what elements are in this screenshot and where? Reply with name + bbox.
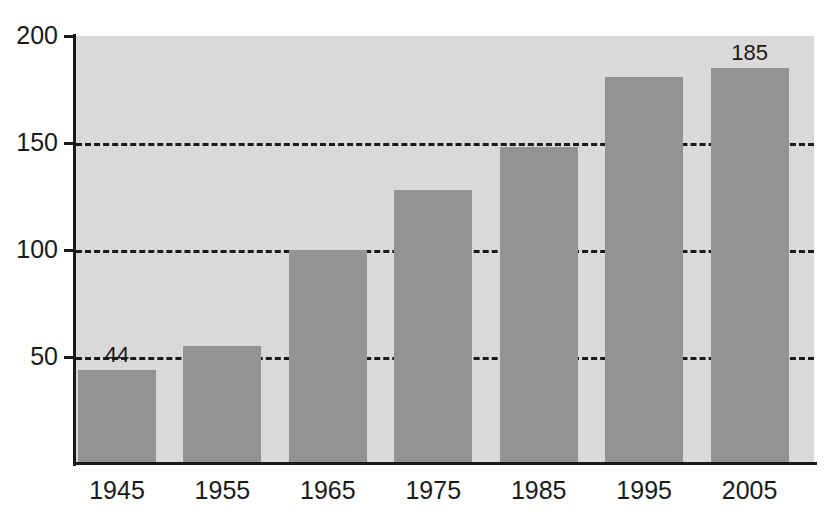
y-tick-mark-100 bbox=[64, 249, 76, 252]
x-tick-label-1985: 1985 bbox=[489, 478, 589, 503]
y-tick-mark-150 bbox=[64, 142, 76, 145]
bar-1985[interactable] bbox=[500, 147, 578, 464]
bar-1975[interactable] bbox=[394, 190, 472, 464]
x-tick-label-2005: 2005 bbox=[700, 478, 800, 503]
x-tick-label-1965: 1965 bbox=[278, 478, 378, 503]
bar-1995[interactable] bbox=[605, 77, 683, 464]
bar-chart: 50100150200 1945195519651975198519952005… bbox=[0, 0, 831, 526]
x-tick-label-1955: 1955 bbox=[172, 478, 272, 503]
bar-1945[interactable] bbox=[78, 370, 156, 464]
x-tick-label-1945: 1945 bbox=[67, 478, 167, 503]
bar-value-label-1945: 44 bbox=[67, 344, 167, 366]
gridline-150 bbox=[76, 143, 814, 146]
x-tick-label-1975: 1975 bbox=[383, 478, 483, 503]
bar-value-label-2005: 185 bbox=[700, 42, 800, 64]
bar-1955[interactable] bbox=[183, 346, 261, 464]
x-axis-line bbox=[73, 462, 817, 465]
x-tick-label-1995: 1995 bbox=[594, 478, 694, 503]
plot-area bbox=[76, 36, 814, 464]
bar-1965[interactable] bbox=[289, 250, 367, 464]
y-tick-label-200: 200 bbox=[0, 23, 58, 48]
y-tick-label-150: 150 bbox=[0, 130, 58, 155]
y-tick-mark-200 bbox=[64, 35, 76, 38]
bar-2005[interactable] bbox=[711, 68, 789, 464]
y-tick-label-50: 50 bbox=[0, 344, 58, 369]
y-tick-label-100: 100 bbox=[0, 237, 58, 262]
